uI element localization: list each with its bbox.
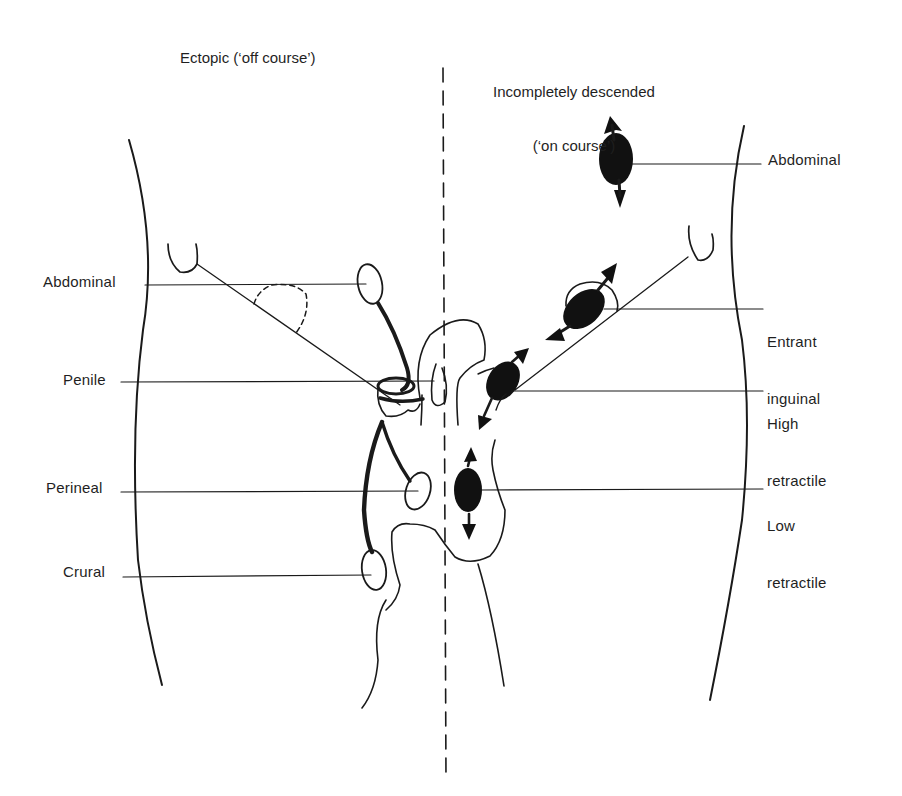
label-ectopic-crural: Crural [63, 562, 105, 581]
body-outline-left [129, 140, 162, 685]
label-low-retractile-line1: Low [767, 516, 827, 535]
label-entrant-inguinal-line1: Entrant [767, 332, 820, 351]
iliac-spine-right [689, 226, 714, 260]
ectopic-cord-perineal [382, 422, 410, 481]
iliac-spine-left [168, 244, 197, 272]
left-thigh-inner [362, 600, 386, 708]
leader-ectopic-penile [121, 381, 434, 382]
arrow-up-inguinal [601, 263, 617, 284]
ectopic-cord-fork [364, 422, 382, 552]
arrow-down-low [462, 524, 476, 540]
heading-ectopic: Ectopic (‘off course’) [180, 49, 316, 67]
arrow-up-low [464, 447, 477, 462]
label-descended-abdominal: Abdominal [768, 150, 841, 169]
heading-incompletely-descended-line2: (‘on course’) [484, 137, 664, 155]
inguinal-ligament-right [515, 257, 688, 390]
label-low-retractile: Low retractile [767, 478, 827, 611]
label-high-retractile-line1: High [767, 414, 827, 433]
right-thigh-inner [478, 564, 504, 686]
penile-band [380, 398, 423, 401]
leader-ectopic-abdominal [145, 284, 366, 285]
leader-ectopic-perineal [121, 491, 418, 492]
high-retractile-testis [479, 355, 527, 407]
low-retractile-testis [454, 468, 482, 512]
arrow-up-high [514, 348, 529, 364]
arrow-down-high [478, 415, 492, 430]
leader-low-retractile [481, 489, 763, 490]
body-outline-right [710, 126, 747, 700]
label-ectopic-penile: Penile [63, 370, 106, 389]
leader-ectopic-crural [123, 575, 371, 577]
midline-divider [443, 68, 446, 780]
label-ectopic-perineal: Perineal [46, 478, 103, 497]
label-ectopic-abdominal: Abdominal [43, 272, 116, 291]
heading-incompletely-descended-line1: Incompletely descended [484, 83, 664, 101]
ectopic-crural-testis [359, 549, 388, 592]
heading-incompletely-descended: Incompletely descended (‘on course’) [484, 47, 664, 173]
label-low-retractile-line2: retractile [767, 573, 827, 592]
penis-outline [418, 320, 485, 425]
